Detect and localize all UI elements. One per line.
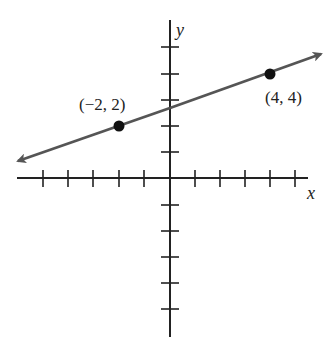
x-axis	[17, 170, 308, 187]
point-neg2-2	[114, 121, 125, 132]
x-axis-label: x	[306, 183, 315, 203]
point-label-neg2-2: (−2, 2)	[79, 95, 125, 114]
point-label-4-4: (4, 4)	[265, 88, 302, 107]
graph-line-left	[18, 108, 170, 161]
point-4-4	[265, 69, 276, 80]
coordinate-plane: y x (−2, 2) (4, 4)	[0, 0, 326, 353]
y-axis-label: y	[174, 20, 184, 40]
